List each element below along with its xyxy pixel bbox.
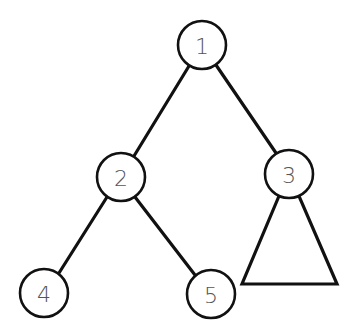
tree-node-5: 5 — [187, 270, 235, 318]
node-label: 5 — [204, 283, 218, 308]
tree-node-4: 4 — [20, 269, 68, 317]
subtree-triangle-node-3 — [242, 196, 337, 284]
node-label: 4 — [37, 282, 51, 307]
edge-2-5 — [135, 197, 195, 275]
edge-1-3 — [216, 65, 276, 153]
node-label: 3 — [282, 163, 296, 188]
tree-node-2: 2 — [97, 153, 145, 201]
edge-2-4 — [59, 197, 107, 273]
node-label: 2 — [114, 166, 128, 191]
binary-tree-diagram: 1 2 3 4 5 — [0, 0, 360, 328]
edge-1-2 — [134, 66, 189, 156]
node-label: 1 — [195, 34, 209, 59]
tree-node-1: 1 — [178, 21, 226, 69]
tree-node-3: 3 — [265, 150, 313, 198]
